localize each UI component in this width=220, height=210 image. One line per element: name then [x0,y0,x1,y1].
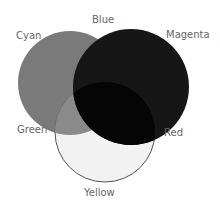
label-magenta: Magenta [166,29,210,40]
label-red: Red [164,127,183,138]
label-green: Green [17,124,47,135]
label-blue: Blue [92,14,114,25]
label-yellow: Yellow [84,187,115,198]
label-cyan: Cyan [16,30,41,41]
